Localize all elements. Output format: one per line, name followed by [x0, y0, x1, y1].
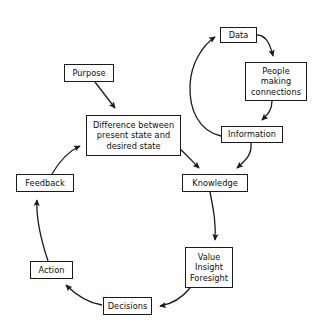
edge-purpose-to-difference: [95, 82, 115, 108]
flow-diagram: Data People making connections Informati…: [0, 0, 326, 335]
node-people-making-connections[interactable]: People making connections: [245, 62, 307, 101]
node-feedback-line-1: Feedback: [25, 178, 64, 189]
node-knowledge-line-1: Knowledge: [192, 178, 237, 189]
edge-action-to-feedback: [37, 200, 48, 261]
edge-information-to-knowledge: [237, 143, 251, 168]
node-people-line-2: making: [261, 76, 292, 87]
node-data-line-1: Data: [229, 30, 249, 41]
node-people-line-3: connections: [251, 87, 301, 98]
node-decisions[interactable]: Decisions: [103, 297, 152, 315]
node-knowledge[interactable]: Knowledge: [182, 174, 248, 192]
node-value-line-2: Insight: [195, 262, 223, 273]
node-feedback[interactable]: Feedback: [16, 174, 74, 192]
node-purpose[interactable]: Purpose: [64, 64, 114, 82]
edge-decisions-to-action: [66, 285, 102, 305]
node-value-line-1: Value: [198, 252, 221, 263]
edge-people-to-information: [262, 101, 272, 120]
node-action[interactable]: Action: [30, 261, 73, 279]
node-value-line-3: Foresight: [190, 273, 228, 284]
edge-knowledge-to-value: [210, 192, 215, 240]
arrow-layer: [0, 0, 326, 335]
node-people-line-1: People: [262, 66, 290, 77]
node-difference-line-1: Difference between: [93, 120, 174, 131]
node-information-line-1: Information: [228, 129, 276, 140]
node-difference-between-states[interactable]: Difference between present state and des…: [86, 115, 181, 156]
node-difference-line-2: present state and: [97, 130, 170, 141]
node-value-insight-foresight[interactable]: Value Insight Foresight: [185, 247, 233, 288]
node-information[interactable]: Information: [221, 126, 283, 143]
edge-value-to-decisions: [160, 288, 190, 306]
node-action-line-1: Action: [39, 265, 65, 276]
node-data[interactable]: Data: [220, 27, 257, 43]
node-purpose-line-1: Purpose: [72, 68, 105, 79]
edge-data-to-people: [257, 35, 273, 56]
edge-difference-to-knowledge: [179, 148, 199, 168]
node-decisions-line-1: Decisions: [108, 301, 148, 312]
edge-information-to-data: [190, 37, 221, 136]
edge-feedback-to-difference: [52, 146, 80, 174]
node-difference-line-3: desired state: [106, 141, 160, 152]
